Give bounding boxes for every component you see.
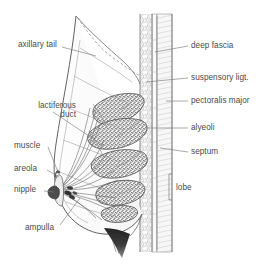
label-muscle: muscle	[14, 141, 40, 150]
label-lobe: lobe	[176, 183, 192, 192]
deep-fascia-band	[152, 14, 157, 252]
label-areola: areola	[14, 164, 37, 173]
label-pectoralis-major-text: pectoralis major	[191, 96, 250, 105]
label-nipple: nipple	[14, 185, 36, 194]
label-septum: septum	[191, 147, 218, 156]
label-ampulla: ampulla	[25, 223, 54, 232]
label-lobe-text: lobe	[176, 183, 192, 192]
label-alyeoli-text: alyeoli	[191, 123, 215, 132]
label-deep-fascia: deep fascia	[191, 41, 233, 50]
label-pectoralis-major: pectoralis major	[191, 96, 250, 105]
label-ampulla-text: ampulla	[25, 223, 54, 232]
label-lactiferous-duct: lactiferous duct	[14, 101, 76, 120]
label-muscle-text: muscle	[14, 141, 40, 150]
label-suspensory-ligt-text: suspensory ligt.	[191, 73, 249, 82]
label-axillary-tail-text: axillary tail	[18, 40, 57, 49]
label-suspensory-ligt: suspensory ligt.	[191, 73, 249, 82]
label-septum-text: septum	[191, 147, 218, 156]
label-areola-text: areola	[14, 164, 37, 173]
pectoralis-major-band	[157, 14, 172, 252]
label-nipple-text: nipple	[14, 185, 36, 194]
label-axillary-tail: axillary tail	[18, 40, 57, 49]
inframammary-fold	[104, 228, 130, 258]
breast-anatomy-figure: axillary tail lactiferous duct muscle ar…	[0, 0, 264, 265]
label-lactiferous-duct-line2: duct	[60, 110, 76, 119]
label-deep-fascia-text: deep fascia	[191, 41, 233, 50]
label-lactiferous-duct-line1: lactiferous	[38, 101, 76, 110]
label-alyeoli: alyeoli	[191, 123, 215, 132]
